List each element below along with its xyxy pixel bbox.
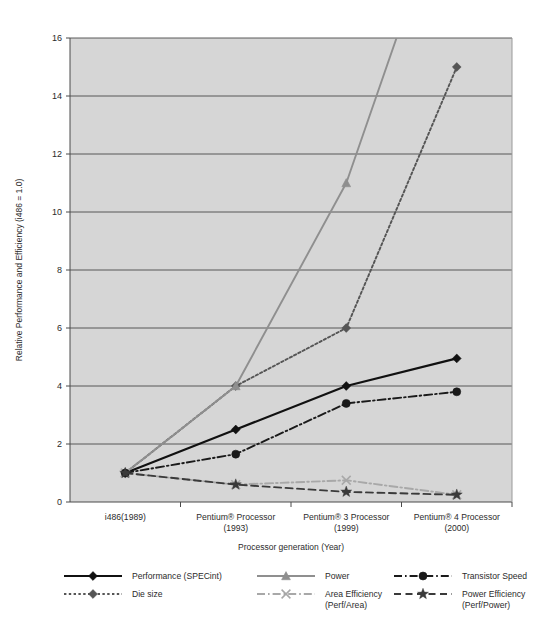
marker-diamond-legend-1 bbox=[89, 590, 98, 599]
x-tick-group bbox=[181, 502, 513, 507]
chart-figure: 0246810121416 i486(1989)Pentium® Process… bbox=[0, 0, 534, 634]
y-axis-title: Relative Performance and Efficiency (i48… bbox=[14, 179, 24, 362]
category-label-3: Pentium® 4 Processor bbox=[414, 512, 500, 522]
x-axis-title: Processor generation (Year) bbox=[238, 542, 344, 552]
y-tick-label-4: 4 bbox=[57, 381, 62, 391]
y-tick-label-0: 0 bbox=[57, 497, 62, 507]
legend-item-power[interactable]: Power bbox=[257, 571, 349, 581]
legend-label-0: Performance (SPECint) bbox=[132, 571, 222, 581]
legend-item-power-efficiency-perf-power[interactable]: Power Efficiency(Perf/Power) bbox=[394, 588, 526, 610]
category-label-1: Pentium® Processor bbox=[196, 512, 275, 522]
legend-label-2: Power bbox=[325, 571, 349, 581]
marker-star-legend-5 bbox=[417, 588, 428, 598]
legend-item-die-size[interactable]: Die size bbox=[64, 589, 163, 599]
marker-circle-4-2 bbox=[342, 399, 350, 407]
legend-item-area-efficiency-perf-area[interactable]: Area Efficiency(Perf/Area) bbox=[257, 589, 383, 610]
y-tick-label-14: 14 bbox=[52, 91, 62, 101]
legend-label-3-sub: (Perf/Area) bbox=[325, 600, 367, 610]
legend-item-transistor-speed[interactable]: Transistor Speed bbox=[394, 571, 527, 581]
legend-label-3: Area Efficiency bbox=[325, 589, 383, 599]
y-tick-group: 0246810121416 bbox=[52, 33, 70, 507]
marker-circle-4-1 bbox=[232, 450, 240, 458]
legend-label-5-sub: (Perf/Power) bbox=[462, 600, 510, 610]
marker-circle-legend-4 bbox=[419, 572, 427, 580]
legend-item-performance-specint[interactable]: Performance (SPECint) bbox=[64, 571, 222, 581]
y-tick-label-8: 8 bbox=[57, 265, 62, 275]
y-tick-label-12: 12 bbox=[52, 149, 62, 159]
legend-label-4: Transistor Speed bbox=[462, 571, 527, 581]
y-tick-label-10: 10 bbox=[52, 207, 62, 217]
category-label-3-year: (2000) bbox=[444, 523, 469, 533]
category-label-2-year: (1999) bbox=[334, 523, 359, 533]
category-label-2: Pentium® 3 Processor bbox=[303, 512, 389, 522]
y-tick-label-2: 2 bbox=[57, 439, 62, 449]
chart-svg: 0246810121416 i486(1989)Pentium® Process… bbox=[0, 0, 534, 634]
category-label-0: i486(1989) bbox=[105, 512, 146, 522]
legend-label-1: Die size bbox=[132, 589, 163, 599]
legend-label-5: Power Efficiency bbox=[462, 589, 526, 599]
y-tick-label-6: 6 bbox=[57, 323, 62, 333]
marker-circle-4-3 bbox=[453, 388, 461, 396]
chart-legend: Performance (SPECint)Die sizePowerArea E… bbox=[64, 571, 527, 610]
category-label-1-year: (1993) bbox=[223, 523, 248, 533]
marker-diamond-legend-0 bbox=[89, 572, 98, 581]
y-tick-label-16: 16 bbox=[52, 33, 62, 43]
category-labels: i486(1989)Pentium® Processor(1993)Pentiu… bbox=[105, 512, 500, 533]
